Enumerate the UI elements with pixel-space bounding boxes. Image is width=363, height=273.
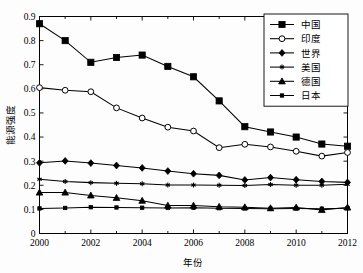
marker-small-square: [140, 206, 143, 209]
marker-legend-filled-square: [279, 21, 285, 27]
x-tick-label: 2006: [184, 238, 203, 248]
marker-filled-square: [319, 141, 325, 147]
marker-filled-square: [267, 129, 273, 135]
marker-open-circle: [88, 89, 94, 95]
marker-filled-square: [190, 74, 196, 80]
y-tick-label: 0.7: [24, 60, 36, 70]
marker-open-circle: [293, 148, 299, 154]
marker-filled-square: [242, 124, 248, 130]
legend-label: 印度: [301, 33, 321, 44]
marker-filled-square: [344, 143, 350, 149]
marker-open-circle: [268, 144, 274, 150]
y-tick-label: 0.4: [24, 132, 36, 142]
y-tick-label: 0.1: [24, 205, 36, 215]
marker-small-square: [217, 206, 220, 209]
marker-open-circle: [165, 124, 171, 130]
x-tick-label: 2004: [133, 238, 152, 248]
marker-filled-square: [62, 38, 68, 44]
marker-small-square: [294, 207, 297, 210]
marker-legend-open-circle: [279, 36, 285, 42]
marker-legend-small-square: [280, 94, 283, 97]
y-tick-label: 0.6: [24, 84, 36, 94]
marker-filled-diamond: [216, 172, 222, 179]
y-axis-title: 能源强度: [5, 105, 16, 145]
y-tick-label: 0.2: [24, 181, 36, 191]
marker-small-square: [38, 207, 41, 210]
y-tick-label: 0.5: [24, 108, 36, 118]
marker-open-circle: [319, 153, 325, 159]
y-tick-label: 0.9: [24, 12, 36, 22]
marker-filled-diamond: [62, 158, 68, 165]
marker-filled-square: [293, 134, 299, 140]
chart-figure: 00.10.20.30.40.50.60.70.80.9 20002002200…: [0, 0, 363, 273]
marker-open-circle: [345, 150, 351, 156]
y-tick-label: 0.8: [24, 36, 36, 46]
x-tick-label: 2012: [338, 238, 357, 248]
marker-filled-diamond: [293, 176, 299, 183]
marker-filled-square: [139, 52, 145, 58]
marker-filled-square: [216, 98, 222, 104]
marker-filled-square: [36, 21, 42, 27]
marker-small-square: [192, 206, 195, 209]
series-3: [37, 177, 349, 188]
marker-small-square: [63, 206, 66, 209]
marker-small-square: [243, 207, 246, 210]
legend-label: 中国: [301, 19, 321, 30]
marker-small-square: [346, 206, 349, 209]
series-2: [37, 158, 351, 186]
marker-filled-diamond: [37, 159, 43, 166]
marker-filled-square: [113, 54, 119, 60]
marker-open-circle: [37, 85, 43, 91]
marker-open-circle: [191, 128, 197, 134]
marker-filled-diamond: [114, 162, 120, 169]
marker-open-circle: [62, 87, 68, 93]
chart-legend[interactable]: 中国印度世界美国德国日本: [264, 14, 348, 106]
marker-filled-diamond: [191, 170, 197, 177]
marker-small-square: [269, 207, 272, 210]
marker-small-square: [89, 206, 92, 209]
marker-open-circle: [114, 105, 120, 111]
legend-label: 世界: [301, 48, 321, 59]
marker-small-square: [166, 206, 169, 209]
x-tick-label: 2010: [287, 238, 306, 248]
marker-filled-diamond: [165, 168, 171, 175]
marker-filled-diamond: [242, 177, 248, 184]
x-tick-label: 2000: [30, 238, 49, 248]
marker-filled-square: [165, 63, 171, 69]
x-tick-label: 2008: [235, 238, 254, 248]
marker-small-square: [115, 206, 118, 209]
line-chart: 00.10.20.30.40.50.60.70.80.9 20002002200…: [0, 0, 363, 273]
marker-open-circle: [139, 115, 145, 121]
marker-filled-diamond: [88, 160, 94, 167]
legend-label: 日本: [301, 90, 321, 101]
y-tick-label: 0.3: [24, 157, 36, 167]
marker-filled-diamond: [268, 174, 274, 181]
marker-open-circle: [242, 141, 248, 147]
legend-label: 德国: [301, 76, 321, 87]
marker-open-circle: [216, 145, 222, 151]
x-tick-label: 2002: [81, 238, 100, 248]
x-axis-title: 年份: [183, 257, 203, 268]
y-axis-tick-labels: 00.10.20.30.40.50.60.70.80.9: [24, 12, 36, 239]
x-axis-tick-labels: 2000200220042006200820102012: [30, 238, 357, 248]
marker-small-square: [320, 207, 323, 210]
marker-filled-diamond: [139, 165, 145, 172]
legend-label: 美国: [301, 62, 321, 73]
marker-filled-square: [88, 59, 94, 65]
